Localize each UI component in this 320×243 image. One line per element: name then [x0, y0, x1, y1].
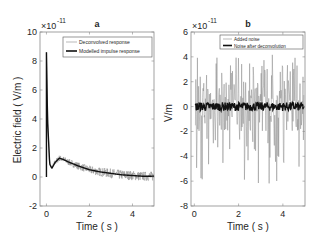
y-tick-label: 0 [32, 172, 37, 182]
y-tick-label: 2 [32, 143, 37, 153]
y-tick-label: 0 [183, 102, 188, 112]
panel-a-exponent-power: -11 [57, 17, 66, 24]
legend-deconvolved-response: Deconvolved response [79, 39, 130, 45]
y-tick-label: 2 [183, 77, 188, 87]
y-tick-label: 10 [27, 27, 37, 37]
panel-b-legend: Added noise Noise after deconvolution [220, 35, 303, 49]
panel-a-axes-box [40, 32, 154, 206]
y-tick-label: -8 [180, 201, 188, 211]
panel-b: -8-6-4-20246 024 ×10 -11 b Time ( s ) V/… [163, 17, 305, 232]
y-tick-label: -4 [180, 151, 188, 161]
x-tick-label: 0 [44, 209, 49, 219]
y-tick-label: 6 [183, 27, 188, 37]
y-tick-label: -2 [29, 201, 37, 211]
x-tick-label: 2 [236, 209, 241, 219]
y-tick-label: 6 [32, 85, 37, 95]
panel-a-title: a [94, 19, 100, 29]
legend-noise-after-deconvolution: Noise after deconvolution [234, 44, 286, 49]
panel-a-exponent-base: ×10 [41, 21, 56, 31]
panel-a-y-label: Electric field ( V/m ) [12, 77, 23, 164]
panel-a: -20246810 024 ×10 -11 a Time ( s ) Elect… [12, 17, 154, 232]
y-tick-label: 4 [32, 114, 37, 124]
y-tick-label: 4 [183, 52, 188, 62]
panel-a-legend: Deconvolved response Modelled impulse re… [63, 37, 152, 57]
y-tick-label: -6 [180, 176, 188, 186]
y-tick-label: -2 [180, 126, 188, 136]
legend-modelled-impulse-response: Modelled impulse response [79, 48, 140, 54]
y-tick-label: 8 [32, 56, 37, 66]
legend-added-noise: Added noise [234, 37, 260, 42]
x-tick-label: 2 [87, 209, 92, 219]
panel-b-exponent-power: -11 [208, 17, 217, 24]
x-tick-label: 0 [192, 209, 197, 219]
figure: -20246810 024 ×10 -11 a Time ( s ) Elect… [0, 0, 320, 243]
x-tick-label: 4 [130, 209, 135, 219]
panel-b-x-label: Time ( s ) [227, 221, 269, 232]
panel-b-exponent-base: ×10 [192, 21, 207, 31]
panel-b-y-label: V/m [163, 104, 174, 122]
panel-a-x-label: Time ( s ) [76, 221, 118, 232]
panel-b-title: b [245, 19, 251, 29]
x-tick-label: 4 [280, 209, 285, 219]
